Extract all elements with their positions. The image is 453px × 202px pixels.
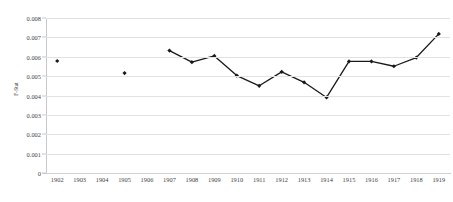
x-tick-label: 1919	[432, 176, 445, 184]
series-segment	[169, 34, 438, 98]
x-tick-label: 1903	[73, 176, 86, 184]
y-tick-mark	[42, 114, 46, 115]
x-tick-label: 1914	[320, 176, 333, 184]
y-tick-mark	[42, 95, 46, 96]
y-tick-mark	[42, 76, 46, 77]
y-tick-mark	[42, 18, 46, 19]
y-axis-tick-labels: 0.0080.0070.0060.0050.0040.0030.0020.001…	[0, 0, 44, 202]
plot-area	[46, 18, 450, 173]
x-tick-label: 1909	[208, 176, 221, 184]
y-tick-mark	[42, 37, 46, 38]
gridline	[46, 115, 450, 116]
data-point-marker	[369, 59, 373, 63]
x-tick-label: 1916	[365, 176, 378, 184]
y-tick-label: 0	[38, 170, 41, 177]
y-tick-label: 0.001	[27, 150, 41, 157]
y-tick-label: 0.005	[27, 73, 41, 80]
y-tick-label: 0.008	[27, 15, 41, 22]
y-tick-label: 0.004	[27, 92, 41, 99]
gridline	[46, 18, 450, 19]
gridline	[46, 173, 450, 174]
x-tick-label: 1906	[141, 176, 154, 184]
y-tick-mark	[42, 173, 46, 174]
x-tick-label: 1904	[96, 176, 109, 184]
line-chart: F-Stat 0.0080.0070.0060.0050.0040.0030.0…	[0, 0, 453, 202]
x-tick-label: 1915	[343, 176, 356, 184]
x-tick-label: 1917	[387, 176, 400, 184]
x-tick-label: 1913	[298, 176, 311, 184]
y-tick-mark	[42, 153, 46, 154]
x-tick-label: 1907	[163, 176, 176, 184]
y-tick-label: 0.007	[27, 34, 41, 41]
gridline	[46, 154, 450, 155]
x-axis-tick-labels: 1902190319041905190619071908190919101911…	[46, 176, 450, 196]
y-tick-label: 0.002	[27, 131, 41, 138]
gridline	[46, 96, 450, 97]
x-tick-label: 1902	[51, 176, 64, 184]
x-tick-label: 1912	[275, 176, 288, 184]
x-tick-label: 1905	[118, 176, 131, 184]
data-point-marker	[392, 64, 396, 68]
x-tick-label: 1910	[230, 176, 243, 184]
y-tick-mark	[42, 134, 46, 135]
x-tick-label: 1911	[253, 176, 266, 184]
data-point-marker	[122, 71, 126, 75]
gridline	[46, 37, 450, 38]
y-tick-mark	[42, 56, 46, 57]
x-tick-label: 1908	[185, 176, 198, 184]
gridline	[46, 134, 450, 135]
gridline	[46, 76, 450, 77]
x-tick-label: 1918	[410, 176, 423, 184]
data-point-marker	[55, 59, 59, 63]
gridline	[46, 57, 450, 58]
y-tick-label: 0.006	[27, 53, 41, 60]
y-tick-label: 0.003	[27, 111, 41, 118]
